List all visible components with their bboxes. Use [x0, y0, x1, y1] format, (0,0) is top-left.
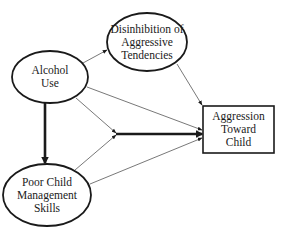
- label-poor-child-management: Poor Child Management Skills: [3, 164, 91, 226]
- label-line: Alcohol: [31, 64, 68, 77]
- label-disinhibition: Disinhibition of Aggressive Tendencies: [107, 13, 187, 71]
- edge-alcohol-to-aggression: [87, 87, 202, 130]
- edge-alcohol-to-interaction: [76, 98, 116, 133]
- label-line: Use: [41, 77, 59, 90]
- label-line: Aggressive: [121, 36, 173, 49]
- label-alcohol-use: Alcohol Use: [12, 51, 88, 103]
- label-line: Child: [226, 136, 252, 149]
- label-line: Disinhibition of: [110, 23, 183, 36]
- label-aggression-toward-child: Aggression Toward Child: [203, 106, 274, 153]
- label-line: Poor Child: [22, 176, 72, 189]
- label-line: Skills: [34, 202, 60, 215]
- label-line: Aggression: [212, 110, 264, 123]
- label-line: Management: [17, 189, 77, 202]
- edge-poor-to-aggression: [90, 138, 202, 184]
- label-line: Tendencies: [121, 49, 173, 62]
- label-line: Toward: [221, 123, 256, 136]
